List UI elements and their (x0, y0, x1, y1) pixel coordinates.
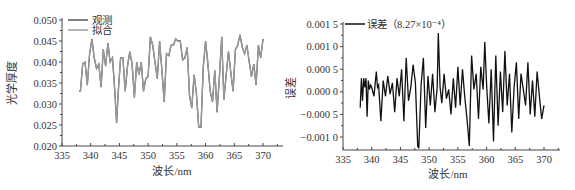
y-tick-label: −0.000 5 (301, 109, 338, 120)
x-tick-label: 340 (364, 154, 380, 165)
x-tick-label: 365 (507, 154, 523, 165)
left-x-tick-labels: 335340345350355360365370 (54, 150, 271, 161)
left-series-fitted (79, 36, 263, 127)
x-tick-label: 350 (140, 150, 156, 161)
left-y-tick-labels: 0.0200.0250.0300.0350.0400.0450.050 (33, 15, 57, 152)
right-x-axis-title: 波长/nm (428, 168, 468, 180)
x-tick-label: 360 (479, 154, 495, 165)
y-tick-label: −0.001 0 (301, 132, 338, 143)
right-y-tick-labels: −0.001 0−0.000 50.000 00.000 50.001 00.0… (301, 19, 338, 143)
legend-label-error: 误差（8.27×10⁻⁴） (367, 18, 451, 30)
y-tick-label: 0.035 (33, 78, 57, 89)
left-chart: 0.0200.0250.0300.0350.0400.0450.050 3353… (5, 14, 283, 177)
x-tick-label: 365 (226, 150, 242, 161)
x-tick-label: 370 (536, 154, 552, 165)
chart-figure: 0.0200.0250.0300.0350.0400.0450.050 3353… (0, 0, 575, 190)
x-tick-label: 355 (169, 150, 185, 161)
x-tick-label: 340 (83, 150, 99, 161)
x-tick-label: 335 (335, 154, 351, 165)
right-chart: −0.001 0−0.000 50.000 00.000 50.001 00.0… (284, 18, 560, 180)
right-series-error (360, 33, 544, 148)
y-tick-label: 0.030 (33, 99, 57, 110)
x-tick-label: 370 (255, 150, 271, 161)
y-tick-label: 0.050 (33, 15, 57, 26)
y-tick-label: 0.000 0 (307, 86, 339, 97)
x-tick-label: 345 (393, 154, 409, 165)
y-tick-label: 0.040 (33, 57, 57, 68)
x-tick-label: 360 (198, 150, 214, 161)
x-tick-label: 335 (54, 150, 70, 161)
left-legend: 观测 拟合 (68, 14, 113, 36)
left-y-axis-title: 光学厚度 (5, 61, 18, 105)
left-x-axis-title: 波长/nm (152, 165, 192, 177)
legend-label-fitted: 拟合 (92, 24, 113, 36)
y-tick-label: 0.000 5 (307, 64, 339, 75)
x-tick-label: 350 (421, 154, 437, 165)
left-axes (59, 18, 283, 146)
right-x-tick-labels: 335340345350355360365370 (335, 154, 552, 165)
right-y-axis-title: 误差 (284, 77, 297, 99)
y-tick-label: 0.001 0 (307, 41, 339, 52)
y-tick-label: 0.025 (33, 120, 57, 131)
x-tick-label: 355 (450, 154, 466, 165)
x-tick-label: 345 (112, 150, 128, 161)
right-legend: 误差（8.27×10⁻⁴） (345, 18, 451, 30)
y-tick-label: 0.001 5 (307, 19, 339, 30)
y-tick-label: 0.045 (33, 36, 57, 47)
